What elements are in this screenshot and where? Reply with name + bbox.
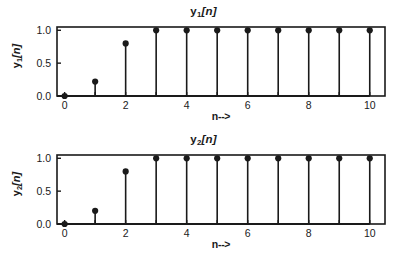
x-tick-label: 8 [306, 99, 312, 111]
stem-plot-y2: 0.00.51.00246810 [0, 128, 407, 238]
stem-marker [214, 155, 220, 161]
y-tick-label: 0.0 [36, 90, 51, 102]
stem-marker [275, 27, 281, 33]
stem-marker [367, 155, 373, 161]
x-tick-label: 2 [123, 227, 129, 239]
x-axis-label-y2: n--> [57, 238, 385, 250]
stem-marker [275, 155, 281, 161]
stem-marker [153, 27, 159, 33]
x-tick-label: 6 [245, 227, 251, 239]
stem-marker [245, 155, 251, 161]
plot-frame [57, 27, 385, 96]
x-tick-label: 6 [245, 99, 251, 111]
stem-marker [123, 40, 129, 46]
stem-marker [92, 208, 98, 214]
stem-marker [306, 27, 312, 33]
y-tick-label: 1.0 [36, 24, 51, 36]
y-tick-label: 0.0 [36, 218, 51, 230]
plot-panel-y1: y1[n] y1[n] 0.00.51.00246810 n--> [0, 0, 407, 128]
stem-marker [336, 155, 342, 161]
x-tick-label: 4 [184, 227, 190, 239]
stem-marker [62, 93, 68, 99]
x-tick-label: 2 [123, 99, 129, 111]
stem-plot-y1: 0.00.51.00246810 [0, 0, 407, 110]
stem-marker [123, 168, 129, 174]
stem-marker [367, 27, 373, 33]
x-tick-label: 10 [364, 227, 376, 239]
x-axis-label-y1: n--> [57, 110, 385, 122]
plot-panel-y2: y2[n] y2[n] 0.00.51.00246810 n--> [0, 128, 407, 256]
y-tick-label: 1.0 [36, 152, 51, 164]
stem-marker [306, 155, 312, 161]
stem-marker [184, 155, 190, 161]
stem-marker [153, 155, 159, 161]
y-tick-label: 0.5 [36, 57, 51, 69]
x-tick-label: 0 [62, 99, 68, 111]
stem-marker [214, 27, 220, 33]
stem-plot-figure: y1[n] y1[n] 0.00.51.00246810 n--> y2[n] … [0, 0, 407, 257]
stem-marker [62, 221, 68, 227]
x-tick-label: 8 [306, 227, 312, 239]
stem-marker [184, 27, 190, 33]
x-tick-label: 10 [364, 99, 376, 111]
y-tick-label: 0.5 [36, 185, 51, 197]
plot-frame [57, 155, 385, 224]
stem-marker [336, 27, 342, 33]
x-tick-label: 0 [62, 227, 68, 239]
stem-marker [245, 27, 251, 33]
x-tick-label: 4 [184, 99, 190, 111]
stem-marker [92, 78, 98, 84]
